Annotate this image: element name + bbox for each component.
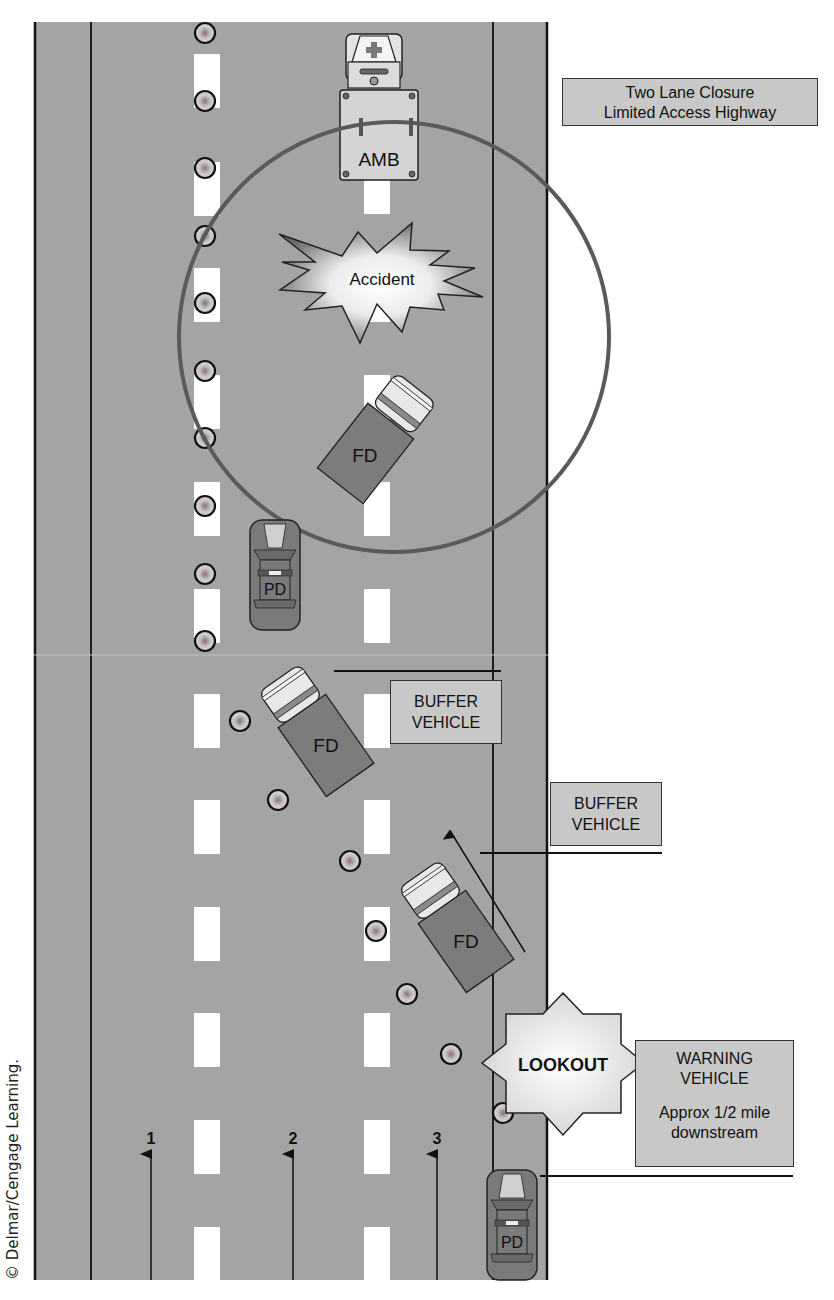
copyright-notice: © Delmar/Cengage Learning. [4, 1059, 22, 1280]
accident-label: Accident [349, 270, 414, 289]
police-car-label: PD [501, 1234, 523, 1251]
cone-icon [268, 790, 288, 810]
cone-icon [195, 564, 215, 584]
cone-icon [441, 1044, 461, 1064]
cone-icon [397, 984, 417, 1004]
warning-vehicle-label: WARNING VEHICLE Approx 1/2 mile downstre… [635, 1040, 794, 1167]
cone-icon [195, 158, 215, 178]
cone-icon [230, 711, 250, 731]
cone-icon [366, 921, 386, 941]
police-car-warning: PD [487, 1170, 537, 1280]
cone-icon [195, 23, 215, 43]
cone-icon [340, 851, 360, 871]
buffer-vehicle-label-1: BUFFER VEHICLE [390, 680, 502, 744]
lookout-star: LOOKOUT [482, 993, 644, 1135]
cone-icon [195, 91, 215, 111]
ambulance-label: AMB [358, 149, 399, 170]
title-box: Two Lane Closure Limited Access Highway [562, 78, 818, 126]
police-car-scene: PD [250, 520, 300, 630]
lookout-label: LOOKOUT [518, 1055, 608, 1075]
police-car-label: PD [264, 581, 286, 598]
road-surface [34, 22, 548, 1280]
cone-icon [195, 496, 215, 516]
fire-engine-label: FD [313, 735, 338, 756]
lane-number-2: 2 [289, 1130, 298, 1147]
title-line-2: Limited Access Highway [563, 103, 817, 123]
cone-icon [195, 631, 215, 651]
lane-number-3: 3 [433, 1130, 442, 1147]
fire-engine-label: FD [453, 931, 478, 952]
buffer-vehicle-label-2: BUFFER VEHICLE [550, 782, 662, 846]
cone-icon [195, 293, 215, 313]
cone-icon [195, 361, 215, 381]
title-line-1: Two Lane Closure [563, 83, 817, 103]
lane-number-1: 1 [147, 1130, 156, 1147]
fire-engine-label: FD [352, 445, 377, 466]
